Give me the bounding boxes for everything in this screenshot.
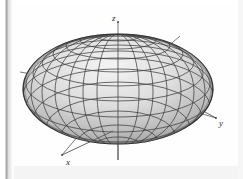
x-axis-label: x (66, 158, 70, 167)
z-axis-label: z (112, 14, 116, 23)
y-axis-label: y (219, 119, 223, 128)
z-axis-tip (117, 21, 119, 23)
figure-page: z y x (0, 0, 243, 179)
x-axis-tip (61, 154, 63, 156)
ellipsoid-surface (23, 31, 213, 161)
y-axis-tip (215, 117, 217, 119)
ellipsoid-plot (0, 0, 243, 179)
